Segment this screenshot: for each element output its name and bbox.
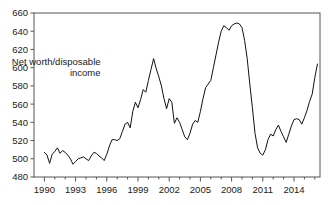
x-tick-label: 1996 <box>96 184 117 195</box>
x-tick-label: 2002 <box>159 184 180 195</box>
y-tick-label: 580 <box>12 80 28 91</box>
net-worth-line-chart: 480500520540560580600620640660 199019931… <box>0 0 335 205</box>
y-tick-label: 640 <box>12 26 28 37</box>
series-annotation-line2: income <box>70 67 101 78</box>
x-tick-label: 2005 <box>190 184 211 195</box>
x-tick-label: 1999 <box>127 184 148 195</box>
y-tick-label: 480 <box>12 171 28 182</box>
y-tick-label: 560 <box>12 99 28 110</box>
chart-background <box>0 0 335 205</box>
x-tick-label: 2008 <box>221 184 242 195</box>
series-annotation-line1: Net worth/disposable <box>12 56 101 67</box>
chart-container: 480500520540560580600620640660 199019931… <box>0 0 335 205</box>
x-tick-label: 2011 <box>253 184 273 195</box>
y-tick-label: 500 <box>12 153 28 164</box>
y-tick-label: 620 <box>12 44 28 55</box>
y-tick-label: 540 <box>12 117 28 128</box>
y-tick-label: 520 <box>12 135 28 146</box>
x-tick-label: 2014 <box>283 184 304 195</box>
y-tick-label: 660 <box>12 7 28 18</box>
x-tick-label: 1990 <box>34 184 55 195</box>
x-tick-label: 1993 <box>65 184 86 195</box>
